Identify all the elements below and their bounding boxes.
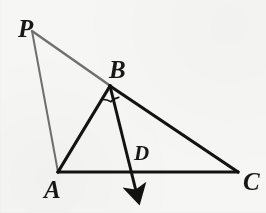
geometry-figure: P B D A C xyxy=(0,0,266,213)
segment-PA xyxy=(32,31,58,172)
point-label-d: D xyxy=(134,143,149,164)
vertex-dot-c xyxy=(237,171,240,174)
vertex-dot-b xyxy=(108,84,112,88)
point-label-a: A xyxy=(44,177,61,202)
point-label-c: C xyxy=(243,169,260,194)
geometry-canvas xyxy=(0,0,266,213)
point-label-p: P xyxy=(18,16,33,41)
vertex-dot-a xyxy=(56,170,59,173)
segment-PB xyxy=(32,31,112,87)
point-label-b: B xyxy=(109,57,126,82)
